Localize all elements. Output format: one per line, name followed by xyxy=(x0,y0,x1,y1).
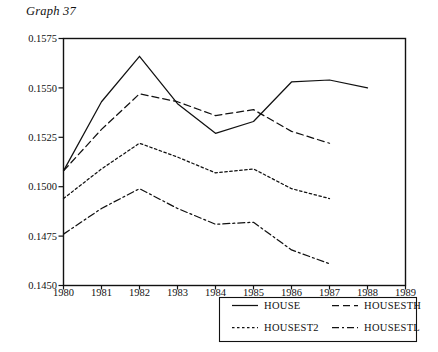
series-line-house xyxy=(64,56,368,171)
y-axis-ticks xyxy=(59,39,64,286)
y-axis-tick-label: 0.1500 xyxy=(28,181,57,192)
series-line-housestl xyxy=(64,189,330,264)
legend-label-housestl: HOUSESTL xyxy=(364,322,420,333)
y-axis-tick-label: 0.1525 xyxy=(28,132,57,143)
series-line-housest2 xyxy=(64,143,330,198)
x-axis-tick-labels: 1980198119821983198419851986198719881989 xyxy=(53,286,416,299)
plot-frame xyxy=(64,39,406,286)
legend-label-housest2: HOUSEST2 xyxy=(264,322,319,333)
y-axis-tick-label: 0.1575 xyxy=(28,33,57,44)
series-lines xyxy=(64,56,368,263)
legend: HOUSEHOUSESTHHOUSEST2HOUSESTL xyxy=(220,298,422,342)
legend-label-house: HOUSE xyxy=(264,300,301,311)
legend-label-housesth: HOUSESTH xyxy=(364,300,421,311)
y-axis-tick-label: 0.1550 xyxy=(28,83,57,94)
y-axis-tick-labels: 0.14500.14750.15000.15250.15500.1575 xyxy=(28,33,57,291)
series-line-housesth xyxy=(64,94,330,171)
y-axis-tick-label: 0.1475 xyxy=(28,231,57,242)
chart-container: Graph 37 0.14500.14750.15000.15250.15500… xyxy=(0,0,438,352)
line-chart-svg: 0.14500.14750.15000.15250.15500.1575 198… xyxy=(0,0,438,352)
